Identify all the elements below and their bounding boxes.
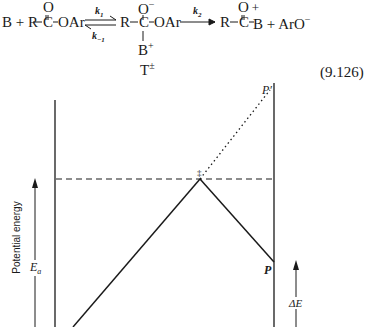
y-axis-label: Potential energy (11, 201, 22, 273)
alt-path-dotted (200, 90, 270, 179)
activation-label: Ea (30, 260, 41, 276)
reactant-path (73, 179, 200, 327)
delta-e-label: ΔE (289, 297, 302, 309)
product-path (200, 179, 274, 262)
product-label: P (264, 263, 271, 278)
transition-state-symbol: ‡ (197, 168, 202, 178)
alt-product-label: P′ (262, 83, 272, 98)
energy-diagram (0, 0, 378, 327)
